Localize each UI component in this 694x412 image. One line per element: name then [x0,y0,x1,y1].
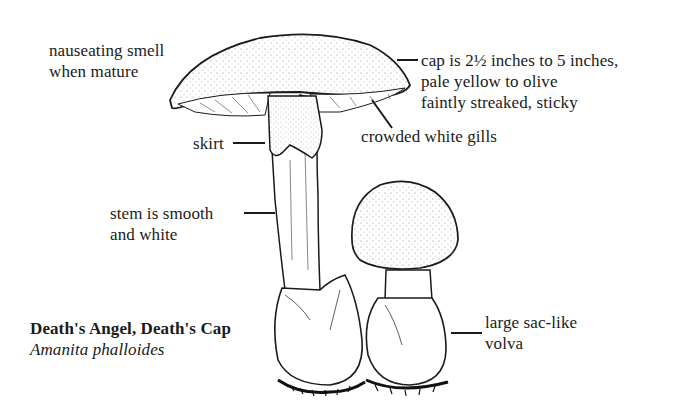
volva-line-2: volva [485,333,577,354]
species-caption: Death's Angel, Death's Cap Amanita phall… [30,318,231,360]
volva-annotation: large sac-like volva [485,312,577,354]
smell-line-1: nauseating smell [49,40,164,61]
cap-annotation: cap is 2½ inches to 5 inches, pale yello… [421,50,618,113]
volva-line-1: large sac-like [485,312,577,333]
smell-annotation: nauseating smell when mature [49,40,164,82]
stem-line-1: stem is smooth [110,203,213,224]
gills-annotation: crowded white gills [361,126,497,147]
scientific-name: Amanita phalloides [30,339,231,360]
large-mushroom-volva [275,275,365,396]
cap-line-2: pale yellow to olive [421,71,618,92]
cap-line-3: faintly streaked, sticky [421,92,618,113]
small-mushroom [352,181,458,396]
skirt-annotation: skirt [193,133,224,154]
stem-line-2: and white [110,224,213,245]
stem-annotation: stem is smooth and white [110,203,213,245]
smell-line-2: when mature [49,61,164,82]
cap-line-1: cap is 2½ inches to 5 inches, [421,50,618,71]
common-name: Death's Angel, Death's Cap [30,318,231,339]
